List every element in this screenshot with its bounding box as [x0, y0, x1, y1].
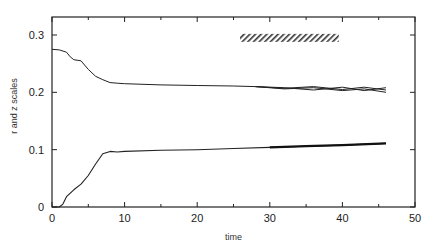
x-tick-label: 20: [191, 212, 203, 224]
y-tick-label: 0.3: [29, 29, 44, 41]
line-chart: 0102030405000.10.20.3timer and z scales: [0, 0, 435, 249]
y-tick-label: 0.2: [29, 86, 44, 98]
series-line: [52, 49, 255, 86]
x-tick-label: 50: [409, 212, 421, 224]
x-tick-label: 30: [264, 212, 276, 224]
x-axis-label: time: [225, 232, 242, 242]
x-tick-label: 10: [118, 212, 130, 224]
x-tick-label: 0: [49, 212, 55, 224]
hatched-interval-bar: [240, 34, 339, 42]
series-line: [52, 143, 386, 207]
plot-frame: [52, 17, 415, 207]
series-line-bundle: [270, 143, 386, 147]
y-tick-label: 0.1: [29, 144, 44, 156]
y-tick-label: 0: [38, 201, 44, 213]
y-axis-label: r and z scales: [9, 78, 19, 134]
x-tick-label: 40: [336, 212, 348, 224]
